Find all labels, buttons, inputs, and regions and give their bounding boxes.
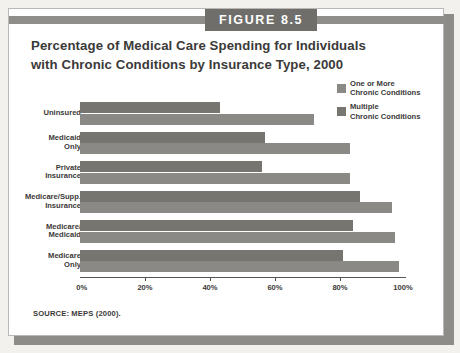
x-axis-tick (145, 277, 146, 281)
bar-multiple-chronic-conditions (80, 250, 343, 261)
figure-number-tag: FIGURE 8.5 (205, 9, 317, 31)
plot-area: UninsuredMedicaid OnlyPrivate InsuranceM… (9, 97, 445, 297)
legend-swatch-one-or-more (337, 84, 346, 93)
source-note: SOURCE: MEPS (2000). (33, 309, 121, 318)
bar-multiple-chronic-conditions (80, 102, 220, 113)
category-label: Uninsured (17, 109, 81, 118)
category-label: Medicare Only (17, 252, 81, 269)
bar-one-or-more-chronic-conditions (80, 143, 350, 154)
bars-area (80, 97, 405, 277)
category-label: Medicaid Only (17, 134, 81, 151)
bar-multiple-chronic-conditions (80, 191, 360, 202)
x-axis-tick (340, 277, 341, 281)
figure-card: FIGURE 8.5 Percentage of Medical Care Sp… (8, 8, 444, 336)
legend-item-one-or-more: One or More Chronic Conditions (337, 79, 441, 97)
x-axis-tick (275, 277, 276, 281)
bar-multiple-chronic-conditions (80, 132, 265, 143)
chart-title: Percentage of Medical Care Spending for … (31, 37, 381, 74)
x-axis-tick-label: 100% (393, 283, 412, 292)
bar-multiple-chronic-conditions (80, 161, 262, 172)
bar-one-or-more-chronic-conditions (80, 114, 314, 125)
bar-one-or-more-chronic-conditions (80, 173, 350, 184)
bar-multiple-chronic-conditions (80, 220, 353, 231)
bar-one-or-more-chronic-conditions (80, 261, 399, 272)
x-axis-tick (210, 277, 211, 281)
bar-one-or-more-chronic-conditions (80, 232, 395, 243)
x-axis-tick-label: 20% (137, 283, 152, 292)
legend-label-one-or-more: One or More Chronic Conditions (350, 79, 420, 97)
x-axis-tick-label: 60% (267, 283, 282, 292)
x-axis-tick-label: 40% (202, 283, 217, 292)
x-axis-tick-label: 0% (76, 283, 87, 292)
category-label: Medicare/ Medicaid (17, 223, 81, 240)
x-axis-tick-label: 80% (332, 283, 347, 292)
figure-header-band: FIGURE 8.5 (9, 9, 445, 31)
x-axis-line (80, 277, 406, 278)
figure-root: FIGURE 8.5 Percentage of Medical Care Sp… (0, 0, 460, 353)
category-axis-labels: UninsuredMedicaid OnlyPrivate InsuranceM… (17, 97, 81, 277)
bar-one-or-more-chronic-conditions (80, 202, 392, 213)
category-label: Medicare/Supp. Insurance (17, 193, 81, 210)
category-label: Private Insurance (17, 164, 81, 181)
